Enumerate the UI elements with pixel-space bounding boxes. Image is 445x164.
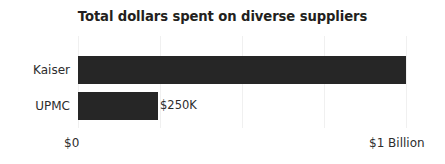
xtick-label-min: $0 bbox=[64, 136, 79, 150]
bars-layer bbox=[78, 36, 406, 128]
value-label-upmc: $250K bbox=[160, 98, 197, 112]
bar-kaiser[interactable] bbox=[78, 56, 406, 84]
xtick-label-max: $1 Billion bbox=[369, 136, 425, 150]
chart-title: Total dollars spent on diverse suppliers bbox=[0, 9, 445, 24]
category-label-kaiser: Kaiser bbox=[0, 63, 70, 77]
plot-area bbox=[78, 36, 406, 128]
gridline-4 bbox=[406, 36, 407, 128]
category-label-upmc: UPMC bbox=[0, 99, 70, 113]
bar-chart: Total dollars spent on diverse suppliers… bbox=[0, 0, 445, 164]
bar-upmc[interactable] bbox=[78, 92, 158, 120]
